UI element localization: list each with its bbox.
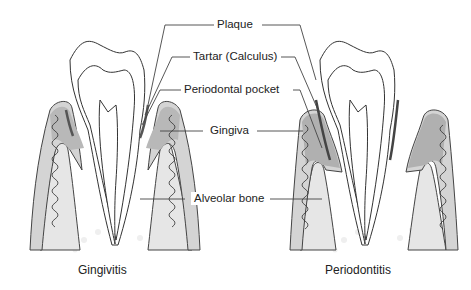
diagram-graphics <box>0 0 471 290</box>
caption-periodontitis: Periodontitis <box>325 263 391 277</box>
periodontitis-tooth <box>290 41 458 250</box>
label-periodontal-pocket: Periodontal pocket <box>181 83 282 96</box>
caption-gingivitis: Gingivitis <box>78 263 127 277</box>
gingivitis-tooth <box>30 41 200 250</box>
label-tartar: Tartar (Calculus) <box>190 50 280 63</box>
label-gingiva: Gingiva <box>207 124 252 137</box>
label-alveolar-bone: Alveolar bone <box>191 192 267 205</box>
label-plaque: Plaque <box>214 18 256 31</box>
dental-diagram: Plaque Tartar (Calculus) Periodontal poc… <box>0 0 471 290</box>
